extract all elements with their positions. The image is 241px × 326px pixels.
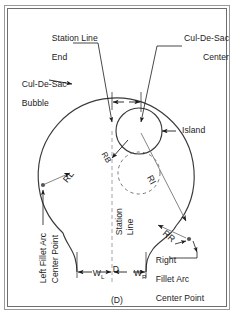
right-fillet-line1: Right (156, 255, 176, 265)
w-left-subscript: L (101, 272, 104, 279)
station-line-end-line1: Station Line (52, 33, 98, 43)
right-fillet-line3: Center Point (156, 293, 204, 303)
w-right-symbol: W (134, 268, 142, 278)
w-left-symbol: W (93, 268, 101, 278)
left-fillet-line2: Center Point (50, 235, 60, 283)
station-line-end-line2: End (52, 52, 67, 62)
cul-de-sac-center-line2: Center (203, 52, 229, 62)
cul-de-sac-diagram: Station Line End Cul-De-Sac Center Cul-D… (0, 0, 241, 326)
label-station-line-end: Station Line End (42, 24, 98, 72)
label-island: Island (182, 126, 205, 136)
dimension-d (112, 92, 141, 112)
station-line-vert-line2: Line (125, 219, 135, 235)
label-cul-de-sac-center: Cul-De-Sac Center (167, 24, 229, 72)
right-fillet-line2: Fillet Arc (156, 274, 189, 284)
cul-de-sac-center-line1: Cul-De-Sac (184, 33, 229, 43)
island-outline (116, 108, 162, 154)
label-dimension-w-left: WL (83, 259, 104, 291)
label-dimension-d: D (103, 255, 119, 284)
cul-de-sac-bubble-line1: Cul-De-Sac (22, 79, 67, 89)
label-right-fillet-center: Right Fillet Arc Center Point (146, 246, 204, 313)
label-cul-de-sac-bubble: Cul-De-Sac Bubble (12, 70, 67, 118)
label-dimension-w-right: WR (124, 259, 146, 291)
dimension-d-symbol: D (113, 264, 119, 274)
figure-caption: (D) (111, 295, 123, 305)
cul-de-sac-bubble-line2: Bubble (22, 98, 49, 108)
label-station-line-vertical-2: Line (116, 219, 145, 245)
label-left-fillet-line2: Center Point (41, 235, 70, 293)
